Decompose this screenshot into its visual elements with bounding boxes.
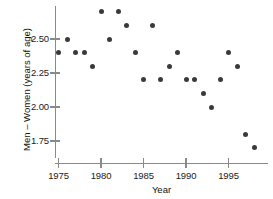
y-tick-mark [50,38,60,39]
y-axis-title: Men – Women (years of age) [21,10,32,170]
data-point [116,9,121,14]
data-point [99,9,104,14]
scatter-plot-figure: 1.752.002.252.50 19751980198519901995 Me… [0,0,273,199]
data-point [243,132,248,137]
x-tick-mark [228,158,229,168]
x-tick-mark [185,158,186,168]
data-point [56,50,61,55]
data-point [201,91,206,96]
data-point [65,37,70,42]
x-axis-title: Year [55,184,268,195]
data-point [209,105,214,110]
x-tick-label: 1975 [39,170,79,181]
data-point [218,77,223,82]
data-point [133,50,138,55]
x-tick-label: 1985 [124,170,164,181]
y-tick-mark [50,106,60,107]
data-point [235,64,240,69]
x-tick-mark [58,158,59,168]
x-axis-line [55,163,268,164]
data-point [192,77,197,82]
plot-area: 1.752.002.252.50 19751980198519901995 [0,0,273,199]
data-point [141,77,146,82]
y-tick-mark [50,140,60,141]
data-point [226,50,231,55]
data-point [175,50,180,55]
x-tick-label: 1995 [209,170,249,181]
data-point [82,50,87,55]
data-point [107,37,112,42]
data-point [158,77,163,82]
x-tick-mark [100,158,101,168]
data-point [252,145,257,150]
data-point [124,23,129,28]
y-axis-line [55,6,56,158]
data-point [167,64,172,69]
y-tick-mark [50,72,60,73]
x-tick-mark [143,158,144,168]
x-tick-label: 1980 [81,170,121,181]
data-point [150,23,155,28]
data-point [73,50,78,55]
data-point [184,77,189,82]
x-tick-label: 1990 [166,170,206,181]
data-point [90,64,95,69]
